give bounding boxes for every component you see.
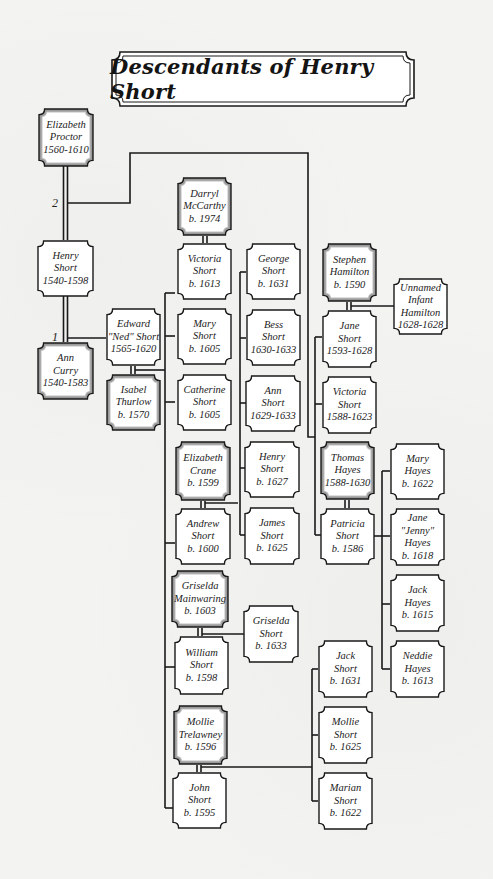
person-name-line: Short [334, 795, 357, 808]
person-unnamed-infant-hamilton[interactable]: UnnamedInfantHamilton1628-1628 [393, 278, 448, 335]
person-name-line: "Jenny" [401, 525, 434, 538]
person-name-line: James [259, 517, 285, 530]
person-jack-short[interactable]: JackShortb. 1631 [318, 640, 373, 698]
person-dates: 1630-1633 [251, 344, 297, 357]
person-henry-short[interactable]: HenryShort1540-1598 [37, 240, 94, 297]
person-dates: 1540-1598 [43, 275, 89, 288]
person-dates: b. 1615 [402, 609, 434, 622]
person-name-line: Short [190, 659, 213, 672]
person-name-line: Hayes [404, 663, 430, 676]
person-elizabeth-crane[interactable]: ElizabethCraneb. 1599 [175, 441, 231, 501]
person-dates: b. 1586 [332, 543, 364, 556]
person-james-short[interactable]: JamesShortb. 1625 [244, 507, 300, 565]
marriage-number-2: 2 [52, 196, 58, 211]
person-mollie-short[interactable]: MollieShortb. 1625 [318, 706, 373, 764]
person-william-short[interactable]: WilliamShortb. 1598 [174, 636, 229, 695]
person-name-line: Victoria [188, 253, 222, 266]
person-griselda-mainwaring[interactable]: GriseldaMainwaringb. 1603 [171, 570, 229, 628]
person-name-line: Marian [330, 782, 362, 795]
person-neddie-hayes[interactable]: NeddieHayesb. 1613 [390, 640, 445, 698]
person-name-line: Short [192, 530, 215, 543]
person-name-line: Mary [193, 318, 216, 331]
person-darryl-mccarthy[interactable]: DarrylMcCarthyb. 1974 [177, 177, 232, 236]
person-thomas-hayes[interactable]: ThomasHayes1588-1630 [320, 441, 375, 500]
person-dates: 1588-1623 [327, 411, 373, 424]
person-name-line: Unnamed [400, 282, 441, 295]
person-elizabeth-proctor[interactable]: ElizabethProctor1560-1610 [38, 108, 94, 167]
person-patricia-short[interactable]: PatriciaShortb. 1586 [320, 508, 375, 565]
person-name-line: Henry [52, 250, 78, 263]
person-dates: 1565-1620 [111, 343, 157, 356]
person-name-line: John [189, 782, 209, 795]
person-dates: b. 1605 [189, 409, 221, 422]
person-mary-short[interactable]: MaryShortb. 1605 [177, 308, 232, 365]
person-isabel-thurlow[interactable]: IsabelThurlowb. 1570 [106, 374, 161, 431]
person-name-line: Catherine [184, 384, 226, 397]
person-name-line: "Ned" Short [108, 331, 159, 344]
person-name-line: Short [188, 794, 211, 807]
person-andrew-short[interactable]: AndrewShortb. 1600 [175, 508, 231, 565]
person-name-line: Neddie [403, 650, 433, 663]
chart-title: Descendants of Henry Short [110, 50, 416, 108]
person-name-line: Crane [190, 465, 216, 478]
person-name-line: Short [338, 333, 361, 346]
person-mollie-trelawney[interactable]: MollieTrelawneyb. 1596 [173, 705, 228, 765]
person-name-line: Griselda [182, 580, 219, 593]
person-dates: b. 1631 [330, 675, 362, 688]
person-name-line: Short [193, 330, 216, 343]
person-name-line: Short [260, 628, 283, 641]
person-name-line: Mary [406, 453, 429, 466]
person-ann-short[interactable]: AnnShort1629-1633 [245, 375, 301, 432]
person-dates: b. 1622 [330, 807, 362, 820]
person-name-line: William [185, 647, 218, 660]
person-name-line: Henry [259, 451, 285, 464]
person-name-line: Stephen [333, 254, 366, 267]
person-catherine-short[interactable]: CatherineShortb. 1605 [177, 374, 232, 431]
person-victoria-short-1588[interactable]: VictoriaShort1588-1623 [322, 376, 377, 434]
person-name-line: Short [262, 265, 285, 278]
person-dates: b. 1603 [184, 605, 216, 618]
person-name-line: Trelawney [179, 729, 222, 742]
person-name-line: Jane [408, 512, 428, 525]
person-george-short[interactable]: GeorgeShortb. 1631 [246, 243, 301, 300]
person-name-line: McCarthy [183, 200, 226, 213]
person-name-line: Short [193, 396, 216, 409]
person-griselda-short[interactable]: GriseldaShortb. 1633 [243, 605, 299, 663]
person-victoria-short-1613[interactable]: VictoriaShortb. 1613 [177, 243, 232, 300]
person-stephen-hamilton[interactable]: StephenHamiltonb. 1590 [322, 243, 377, 302]
person-jane-short[interactable]: JaneShort1593-1628 [322, 310, 377, 368]
person-dates: b. 1625 [330, 741, 362, 754]
person-marian-short[interactable]: MarianShortb. 1622 [318, 772, 373, 830]
person-dates: b. 1605 [189, 343, 221, 356]
person-name-line: Victoria [333, 386, 367, 399]
person-ann-curry[interactable]: AnnCurry1540-1583 [37, 342, 94, 400]
person-jack-hayes[interactable]: JackHayesb. 1615 [390, 574, 445, 632]
person-dates: b. 1633 [255, 640, 287, 653]
person-name-line: Jack [336, 650, 355, 663]
person-dates: b. 1631 [258, 278, 290, 291]
person-name-line: Short [334, 663, 357, 676]
person-dates: b. 1598 [186, 672, 218, 685]
person-name-line: Darryl [190, 188, 219, 201]
person-henry-short-1627[interactable]: HenryShortb. 1627 [244, 441, 300, 498]
person-name-line: Proctor [50, 131, 82, 144]
person-mary-hayes[interactable]: MaryHayesb. 1622 [390, 443, 445, 500]
person-name-line: Short [334, 729, 357, 742]
person-name-line: Mollie [332, 716, 359, 729]
person-dates: b. 1613 [402, 675, 434, 688]
person-name-line: Infant [408, 294, 433, 307]
person-name-line: Ann [57, 352, 74, 365]
person-name-line: Hayes [404, 597, 430, 610]
person-dates: b. 1600 [187, 543, 219, 556]
person-name-line: Mainwaring [174, 593, 226, 606]
person-edward-short[interactable]: Edward"Ned" Short1565-1620 [106, 308, 161, 366]
person-name-line: Edward [117, 318, 150, 331]
person-name-line: Hamilton [330, 266, 370, 279]
person-name-line: Elizabeth [183, 452, 223, 465]
person-john-short[interactable]: JohnShortb. 1595 [172, 772, 227, 829]
person-name-line: Mollie [187, 716, 214, 729]
person-dates: 1588-1630 [325, 477, 371, 490]
person-jane-hayes[interactable]: Jane"Jenny"Hayesb. 1618 [390, 508, 445, 566]
person-bess-short[interactable]: BessShort1630-1633 [246, 309, 301, 366]
person-name-line: George [258, 253, 289, 266]
